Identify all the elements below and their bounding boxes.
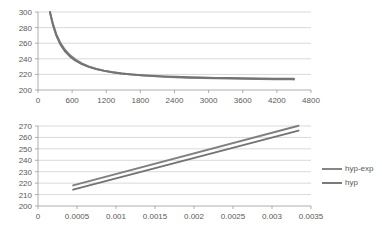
y-tick-label: 260 — [19, 133, 33, 142]
line-chart-bottom: 20021022023024025026027000.00050.0010.00… — [0, 118, 382, 241]
x-tick-label: 4200 — [268, 96, 286, 105]
series-line-hyp-exp — [50, 12, 294, 79]
series-line-hyp — [50, 12, 294, 79]
y-tick-label: 220 — [19, 70, 33, 79]
x-tick-label: 3000 — [200, 96, 218, 105]
line-chart-top: 2002202402602803000600120018002400300036… — [0, 0, 382, 118]
y-tick-label: 210 — [19, 191, 33, 200]
y-tick-label: 300 — [19, 8, 33, 17]
x-tick-label: 0.002 — [184, 212, 205, 221]
y-tick-label: 250 — [19, 145, 33, 154]
chart-figure: 2002202402602803000600120018002400300036… — [0, 0, 382, 241]
x-tick-label: 2400 — [166, 96, 184, 105]
y-tick-label: 240 — [19, 156, 33, 165]
y-tick-label: 200 — [19, 86, 33, 95]
x-tick-label: 3600 — [234, 96, 252, 105]
legend-label-hyp: hyp — [345, 178, 358, 187]
y-tick-label: 240 — [19, 55, 33, 64]
chart-panel-bottom: 20021022023024025026027000.00050.0010.00… — [0, 118, 382, 241]
x-tick-label: 600 — [65, 96, 79, 105]
x-tick-label: 0.0025 — [221, 212, 246, 221]
legend-label-hyp-exp: hyp-exp — [345, 164, 374, 173]
x-tick-label: 0.0005 — [65, 212, 90, 221]
x-tick-label: 0 — [36, 212, 41, 221]
y-tick-label: 200 — [19, 202, 33, 211]
chart-panel-top: 2002202402602803000600120018002400300036… — [0, 0, 382, 118]
x-tick-label: 0.003 — [262, 212, 283, 221]
x-tick-label: 1800 — [131, 96, 149, 105]
x-tick-label: 4800 — [302, 96, 320, 105]
x-tick-label: 0 — [36, 96, 41, 105]
x-tick-label: 1200 — [97, 96, 115, 105]
y-tick-label: 220 — [19, 179, 33, 188]
y-tick-label: 270 — [19, 122, 33, 131]
series-line-hyp-exp — [73, 126, 298, 186]
y-tick-label: 230 — [19, 168, 33, 177]
x-tick-label: 0.001 — [106, 212, 127, 221]
x-tick-label: 0.0015 — [143, 212, 168, 221]
y-tick-label: 280 — [19, 24, 33, 33]
x-tick-label: 0.0035 — [299, 212, 324, 221]
y-tick-label: 260 — [19, 39, 33, 48]
